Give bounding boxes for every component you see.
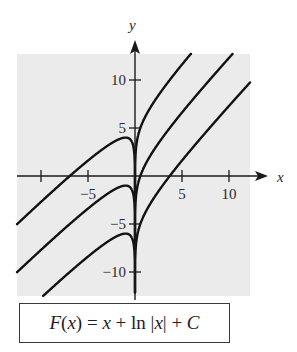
formula-term: x bbox=[102, 312, 110, 334]
y-axis-label: y bbox=[127, 17, 136, 33]
formula-arg: x bbox=[67, 312, 75, 334]
formula-plus: + bbox=[111, 312, 131, 334]
formula-box: F(x) = x + ln |x| + C bbox=[19, 303, 230, 343]
formula-ln: ln bbox=[131, 312, 151, 334]
x-axis-label: x bbox=[276, 169, 284, 185]
y-tick-label: −5 bbox=[110, 216, 126, 232]
formula-constant: C bbox=[187, 312, 200, 334]
formula-term: x bbox=[154, 312, 162, 334]
formula-plus: + bbox=[167, 312, 187, 334]
x-tick-label: 5 bbox=[178, 186, 186, 202]
x-tick-label: 10 bbox=[222, 186, 237, 202]
formula-lhs: F bbox=[49, 312, 61, 334]
plot-panel bbox=[17, 54, 250, 296]
y-tick-label: 10 bbox=[111, 72, 126, 88]
y-tick-label: −10 bbox=[103, 264, 126, 280]
x-tick-label: −5 bbox=[80, 186, 96, 202]
y-tick-label: 5 bbox=[119, 120, 127, 136]
formula-eq: = bbox=[82, 312, 102, 334]
chart: −5510−10−5510 y x bbox=[0, 0, 297, 352]
